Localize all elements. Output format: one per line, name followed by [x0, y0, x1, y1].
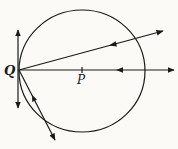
arrow-icon-horizontal [116, 67, 123, 73]
diagram-svg [0, 0, 178, 149]
lower-ray [19, 70, 55, 140]
label-q: Q [4, 64, 15, 77]
label-p: P [77, 74, 85, 86]
diagram-canvas: Q P [0, 0, 178, 149]
arrow-icon-upper [109, 41, 117, 46]
